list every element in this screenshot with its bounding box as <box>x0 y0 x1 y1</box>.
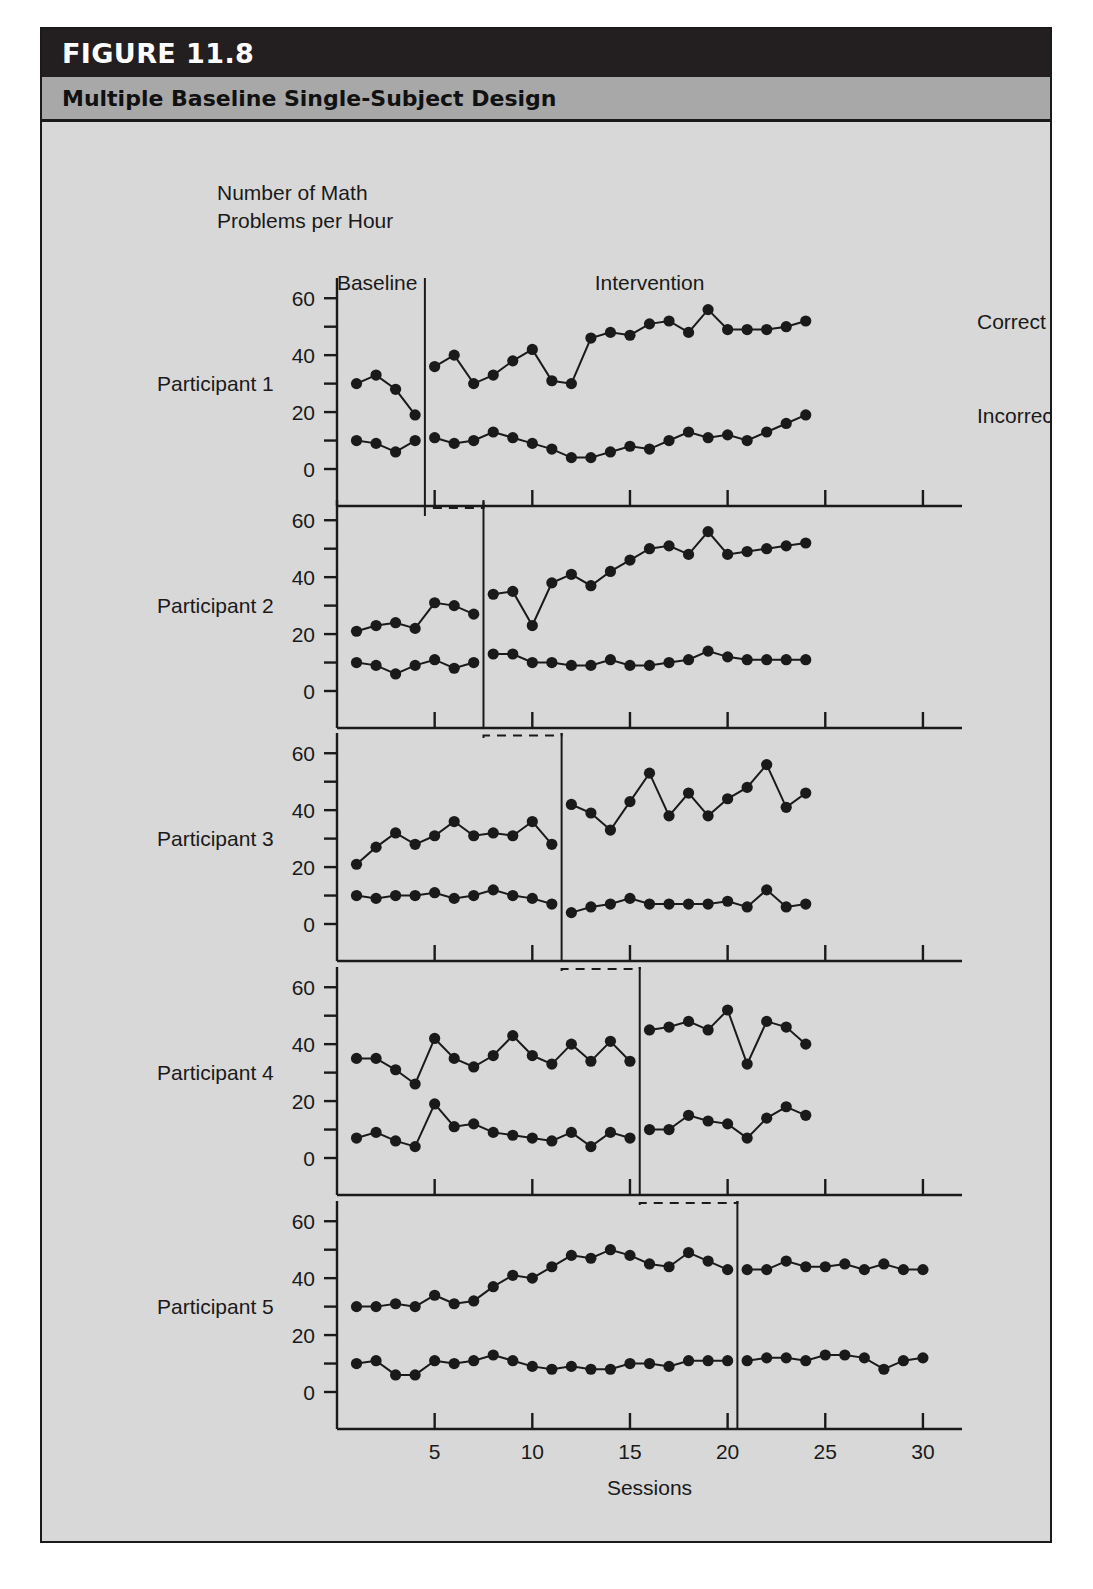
data-point-incorrect-p5-s15 <box>624 1358 635 1369</box>
data-point-correct-p2-s6 <box>449 600 460 611</box>
y-tick-label-0-p3: 0 <box>303 913 315 936</box>
data-point-incorrect-p5-s23 <box>781 1352 792 1363</box>
data-point-correct-p4-s13 <box>585 1056 596 1067</box>
figure-title: Multiple Baseline Single-Subject Design <box>62 86 557 111</box>
y-tick-label-40-p5: 40 <box>292 1267 315 1290</box>
data-point-correct-p4-s14 <box>605 1036 616 1047</box>
data-point-incorrect-p2-s8 <box>488 648 499 659</box>
y-axis-title-line1: Number of Math <box>217 181 368 204</box>
data-point-incorrect-p3-s17 <box>663 898 674 909</box>
figure-title-band: Multiple Baseline Single-Subject Design <box>42 77 1050 122</box>
data-point-incorrect-p1-s16 <box>644 443 655 454</box>
data-point-correct-p3-s9 <box>507 830 518 841</box>
data-point-correct-p5-s30 <box>917 1264 928 1275</box>
data-point-incorrect-p1-s7 <box>468 435 479 446</box>
data-point-correct-p4-s2 <box>370 1053 381 1064</box>
data-point-correct-p1-s14 <box>605 327 616 338</box>
data-point-correct-p3-s21 <box>742 782 753 793</box>
data-point-incorrect-p5-s10 <box>527 1361 538 1372</box>
y-tick-label-0-p4: 0 <box>303 1147 315 1170</box>
data-point-correct-p3-s4 <box>410 839 421 850</box>
data-point-incorrect-p5-s19 <box>702 1355 713 1366</box>
data-point-correct-p1-s7 <box>468 378 479 389</box>
data-point-correct-p4-s8 <box>488 1050 499 1061</box>
y-tick-label-0-p1: 0 <box>303 458 315 481</box>
data-point-incorrect-p2-s16 <box>644 660 655 671</box>
data-point-incorrect-p5-s6 <box>449 1358 460 1369</box>
data-point-correct-p5-s23 <box>781 1255 792 1266</box>
data-point-correct-p5-s9 <box>507 1270 518 1281</box>
data-point-incorrect-p5-s1 <box>351 1358 362 1369</box>
data-point-correct-p4-s19 <box>702 1024 713 1035</box>
data-point-incorrect-p5-s5 <box>429 1355 440 1366</box>
data-point-incorrect-p1-s10 <box>527 438 538 449</box>
data-point-incorrect-p3-s22 <box>761 884 772 895</box>
data-point-correct-p5-s19 <box>702 1255 713 1266</box>
data-point-incorrect-p1-s13 <box>585 452 596 463</box>
data-point-correct-p1-s3 <box>390 384 401 395</box>
data-point-correct-p4-s11 <box>546 1058 557 1069</box>
data-point-incorrect-p3-s6 <box>449 893 460 904</box>
data-point-incorrect-p3-s21 <box>742 901 753 912</box>
multiple-baseline-chart: Number of MathProblems per HourParticipa… <box>42 125 1050 1541</box>
data-point-incorrect-p3-s1 <box>351 890 362 901</box>
data-point-correct-p1-s16 <box>644 318 655 329</box>
series-label-correct: Correct <box>977 310 1046 333</box>
panel-label-2: Participant 2 <box>157 594 274 617</box>
x-tick-label-15: 15 <box>618 1440 641 1463</box>
data-point-incorrect-p3-s11 <box>546 898 557 909</box>
data-point-correct-p4-s16 <box>644 1024 655 1035</box>
y-tick-label-60-p3: 60 <box>292 742 315 765</box>
data-point-correct-p4-s23 <box>781 1021 792 1032</box>
data-point-incorrect-p3-s7 <box>468 890 479 901</box>
data-point-correct-p5-s11 <box>546 1261 557 1272</box>
data-point-incorrect-p1-s14 <box>605 446 616 457</box>
x-tick-label-5: 5 <box>429 1440 441 1463</box>
data-point-correct-p2-s19 <box>702 526 713 537</box>
data-point-correct-p2-s15 <box>624 554 635 565</box>
y-tick-label-60-p5: 60 <box>292 1210 315 1233</box>
y-tick-label-40-p2: 40 <box>292 566 315 589</box>
data-point-correct-p4-s1 <box>351 1053 362 1064</box>
data-point-incorrect-p2-s1 <box>351 657 362 668</box>
data-point-incorrect-p3-s10 <box>527 893 538 904</box>
data-point-correct-p4-s5 <box>429 1033 440 1044</box>
data-point-incorrect-p4-s11 <box>546 1135 557 1146</box>
data-point-incorrect-p1-s9 <box>507 432 518 443</box>
data-point-incorrect-p4-s4 <box>410 1141 421 1152</box>
data-point-correct-p1-s1 <box>351 378 362 389</box>
data-point-incorrect-p4-s9 <box>507 1130 518 1141</box>
data-point-incorrect-p5-s30 <box>917 1352 928 1363</box>
data-point-correct-p5-s13 <box>585 1253 596 1264</box>
data-point-correct-p5-s26 <box>839 1258 850 1269</box>
data-point-correct-p1-s6 <box>449 350 460 361</box>
data-point-correct-p3-s16 <box>644 768 655 779</box>
data-point-incorrect-p5-s2 <box>370 1355 381 1366</box>
data-point-correct-p1-s23 <box>781 321 792 332</box>
data-point-correct-p1-s8 <box>488 369 499 380</box>
data-point-incorrect-p1-s8 <box>488 426 499 437</box>
chart-plot-region: Number of MathProblems per HourParticipa… <box>42 125 1050 1541</box>
y-tick-label-40-p4: 40 <box>292 1033 315 1056</box>
data-point-incorrect-p5-s9 <box>507 1355 518 1366</box>
data-point-incorrect-p5-s25 <box>820 1349 831 1360</box>
x-axis-title: Sessions <box>607 1476 692 1499</box>
data-point-correct-p5-s3 <box>390 1298 401 1309</box>
intervention-phase-label: Intervention <box>595 271 705 294</box>
data-point-incorrect-p4-s21 <box>742 1132 753 1143</box>
data-point-incorrect-p2-s2 <box>370 660 381 671</box>
data-point-incorrect-p3-s20 <box>722 896 733 907</box>
data-line-correct-baseline-p3 <box>357 822 552 865</box>
data-point-correct-p4-s15 <box>624 1056 635 1067</box>
data-point-incorrect-p2-s24 <box>800 654 811 665</box>
data-point-correct-p5-s1 <box>351 1301 362 1312</box>
data-line-correct-intervention-p4 <box>650 1010 806 1064</box>
phase-connector-p3-to-p4 <box>562 967 640 971</box>
data-point-incorrect-p3-s15 <box>624 893 635 904</box>
data-point-incorrect-p5-s20 <box>722 1355 733 1366</box>
data-point-correct-p3-s20 <box>722 793 733 804</box>
data-point-correct-p1-s17 <box>663 315 674 326</box>
y-tick-label-0-p5: 0 <box>303 1381 315 1404</box>
x-tick-label-30: 30 <box>911 1440 934 1463</box>
data-point-incorrect-p4-s23 <box>781 1101 792 1112</box>
